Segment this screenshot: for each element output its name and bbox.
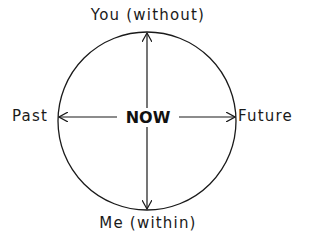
label-you-without: You (without) [0, 8, 296, 23]
label-me-within: Me (within) [0, 216, 296, 231]
label-past: Past [12, 109, 48, 124]
label-now: NOW [117, 108, 179, 127]
label-future: Future [238, 109, 293, 124]
